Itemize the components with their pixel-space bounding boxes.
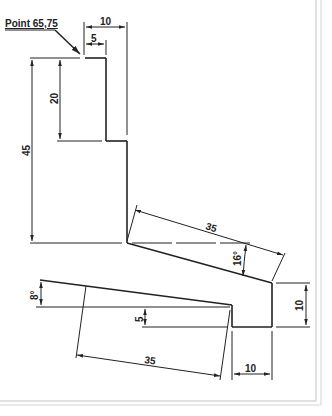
dim-total-height: 45 xyxy=(21,144,32,156)
callout-label: Point 65,75 xyxy=(5,18,58,29)
dim-right-height: 10 xyxy=(294,299,305,311)
dimension-lines xyxy=(32,27,306,376)
point-callout: Point 65,75 xyxy=(5,18,80,54)
dim-step-height: 5 xyxy=(134,316,145,322)
part-outline xyxy=(40,58,272,327)
frame-border xyxy=(0,0,321,405)
dim-angle-lower: 8° xyxy=(29,290,40,300)
dim-top-width-outer: 10 xyxy=(100,16,112,27)
dim-bottom-width: 10 xyxy=(245,363,257,374)
dim-upper-height: 20 xyxy=(49,92,60,104)
dim-slant-length-lower: 35 xyxy=(144,354,157,367)
technical-drawing: Point 65,75 10 5 20 45 35 16° 10 8° 5 35… xyxy=(0,0,332,416)
dim-angle-upper: 16° xyxy=(232,251,243,266)
dim-top-width-inner: 5 xyxy=(91,33,97,44)
